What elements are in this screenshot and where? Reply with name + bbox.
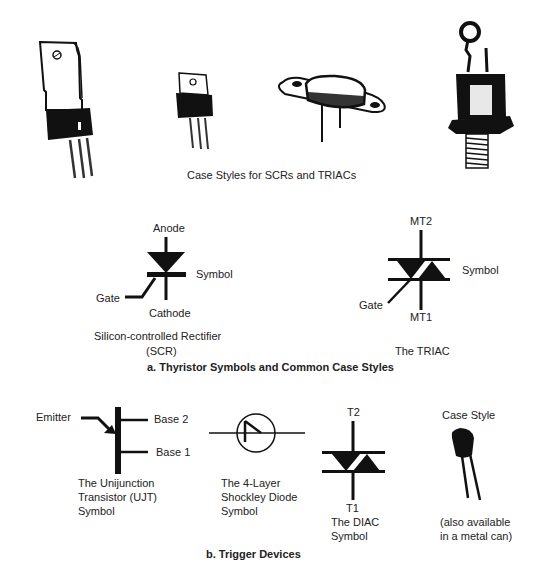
- diac-t2-label: T2: [347, 406, 360, 419]
- scr-anode-label: Anode: [153, 222, 185, 235]
- scr-caption-line2: (SCR): [146, 345, 177, 358]
- ujt-base2-label: Base 2: [154, 413, 188, 426]
- triac-symbol-label: Symbol: [462, 264, 499, 277]
- diac-caption-line1: The DIAC: [331, 515, 379, 529]
- diac-caption-line2: Symbol: [331, 529, 368, 543]
- scr-cathode-label: Cathode: [149, 307, 191, 320]
- scr-gate-label: Gate: [96, 292, 120, 305]
- case-style-note-line2: in a metal can): [440, 529, 512, 543]
- ujt-caption-line3: Symbol: [78, 504, 115, 518]
- shockley-caption-line3: Symbol: [221, 504, 258, 518]
- shockley-caption-line2: Shockley Diode: [221, 490, 297, 504]
- scr-symbol-label: Symbol: [196, 268, 233, 281]
- ujt-caption-line1: The Unijunction: [78, 476, 154, 490]
- triac-caption: The TRIAC: [395, 345, 450, 358]
- case-style-title: Case Style: [442, 409, 495, 422]
- case-styles-caption: Case Styles for SCRs and TRIACs: [187, 169, 356, 182]
- ujt-emitter-label: Emitter: [36, 411, 71, 424]
- triac-gate-label: Gate: [359, 299, 383, 312]
- diac-t1-label: T1: [346, 502, 359, 515]
- shockley-caption-line1: The 4-Layer: [221, 476, 280, 490]
- ujt-base1-label: Base 1: [156, 446, 190, 459]
- ujt-caption-line2: Transistor (UJT): [78, 490, 157, 504]
- case-style-note-line1: (also available: [440, 515, 510, 529]
- scr-caption-line1: Silicon-controlled Rectifier: [94, 330, 221, 343]
- section-b-heading: b. Trigger Devices: [206, 548, 301, 561]
- triac-mt1-label: MT1: [410, 311, 432, 324]
- triac-mt2-label: MT2: [410, 215, 432, 228]
- to-92-package-image: [0, 0, 1, 1]
- section-a-heading: a. Thyristor Symbols and Common Case Sty…: [147, 361, 394, 374]
